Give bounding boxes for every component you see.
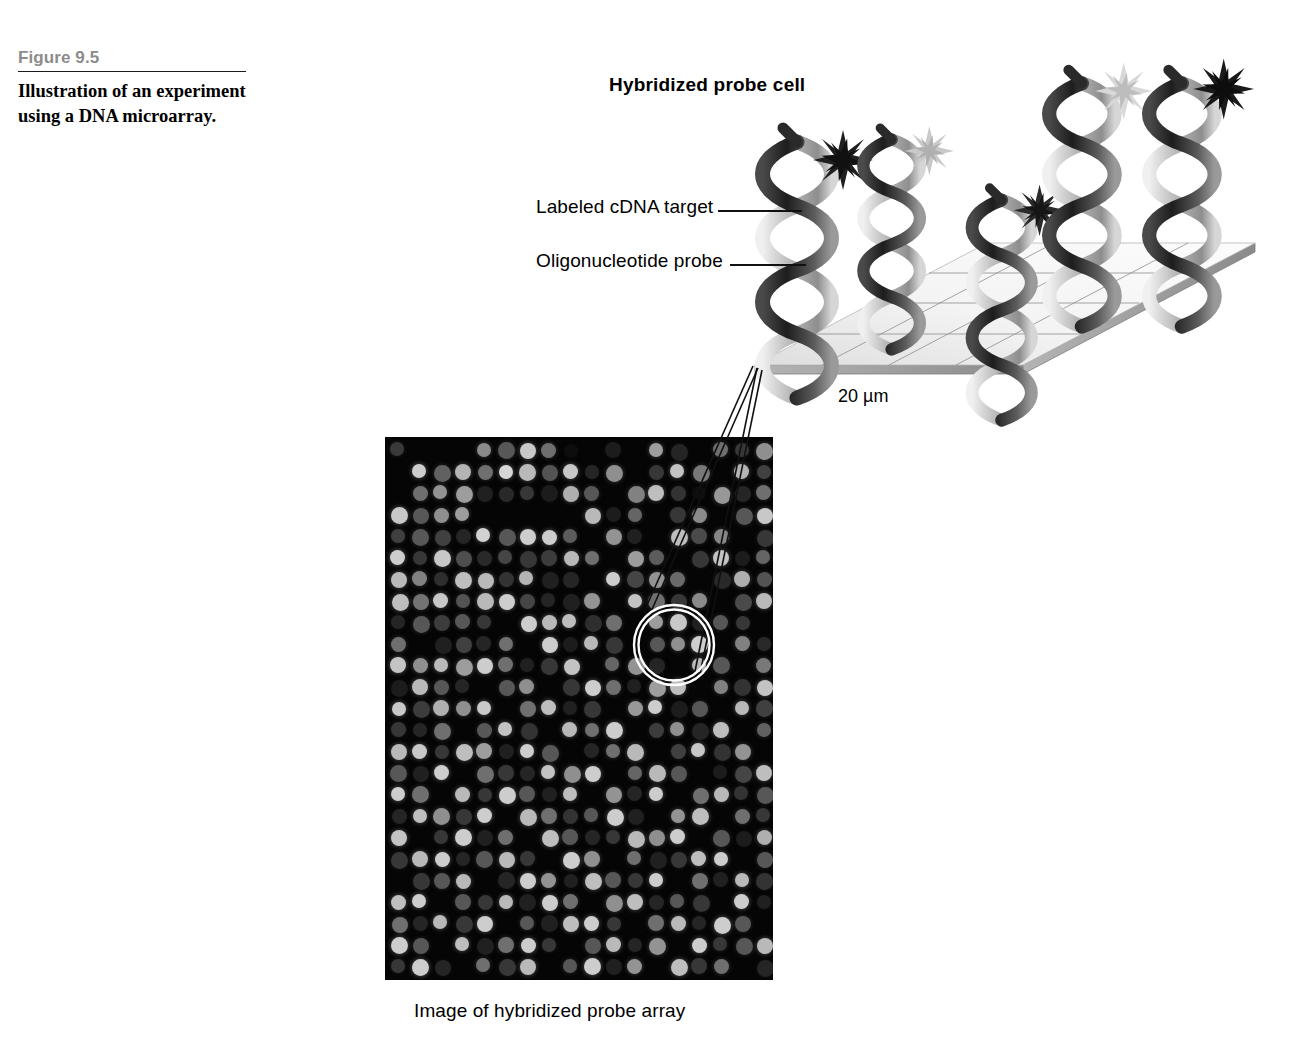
figure-illustration bbox=[0, 0, 1310, 1056]
zoom-leader-upper-inner bbox=[650, 368, 758, 614]
zoom-circle-outer bbox=[634, 605, 714, 685]
fluorescent-label-star bbox=[905, 126, 954, 175]
zoom-circle-inner bbox=[639, 610, 710, 681]
fluorescent-label-star bbox=[1193, 59, 1254, 120]
magnification-callout bbox=[634, 366, 762, 685]
zoom-leader-upper-outer bbox=[644, 366, 753, 612]
zoom-leader-lower-outer bbox=[693, 368, 757, 681]
